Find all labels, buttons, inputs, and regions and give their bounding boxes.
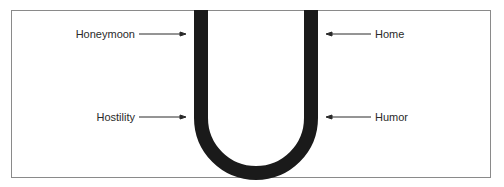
- arrow-hostility: [139, 115, 186, 119]
- label-honeymoon: Honeymoon: [76, 28, 135, 40]
- arrow-humor: [326, 115, 371, 119]
- u-curve: [201, 10, 311, 173]
- label-hostility: Hostility: [96, 111, 135, 123]
- label-humor: Humor: [375, 111, 408, 123]
- arrow-home: [326, 32, 371, 36]
- arrow-honeymoon: [139, 32, 186, 36]
- label-home: Home: [375, 28, 404, 40]
